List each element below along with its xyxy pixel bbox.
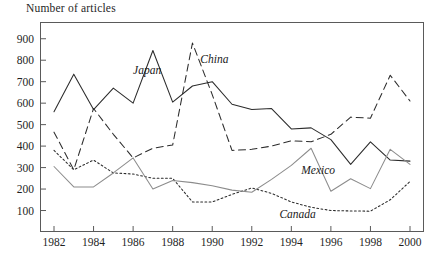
y-tick-label: 600 <box>17 97 34 109</box>
x-tick-label: 1984 <box>82 236 105 248</box>
series-label-japan: Japan <box>133 64 161 76</box>
y-tick-label: 300 <box>17 162 34 174</box>
y-axis-title: Number of articles <box>26 2 116 14</box>
y-tick-label: 800 <box>17 54 34 66</box>
y-tick-label: 700 <box>17 76 34 88</box>
y-tick-label: 900 <box>17 33 34 45</box>
plot-lines <box>40 22 424 232</box>
series-line-japan <box>54 51 410 165</box>
x-tick-label: 1986 <box>122 236 145 248</box>
y-axis-tick-labels: 100200300400500600700800900 <box>0 22 34 232</box>
x-tick-label: 1994 <box>280 236 303 248</box>
series-line-mexico <box>54 148 410 192</box>
x-tick-label: 1982 <box>43 236 66 248</box>
plot-area: JapanChinaCanadaMexico <box>40 22 424 232</box>
x-tick-label: 2000 <box>399 236 422 248</box>
x-tick-label: 1992 <box>240 236 263 248</box>
series-line-china <box>54 43 410 170</box>
y-tick-label: 200 <box>17 183 34 195</box>
series-label-china: China <box>200 53 228 65</box>
x-tick-label: 1988 <box>161 236 184 248</box>
x-tick-label: 1998 <box>359 236 382 248</box>
y-tick-label: 500 <box>17 119 34 131</box>
y-tick-label: 100 <box>17 205 34 217</box>
x-tick-label: 1996 <box>319 236 342 248</box>
chart-figure: Number of articles 100200300400500600700… <box>0 0 438 267</box>
x-tick-label: 1990 <box>201 236 224 248</box>
series-label-canada: Canada <box>279 208 315 220</box>
y-tick-label: 400 <box>17 140 34 152</box>
series-line-canada <box>54 150 410 211</box>
x-axis-tick-labels: 1982198419861988199019921994199619982000 <box>40 236 424 254</box>
series-label-mexico: Mexico <box>301 164 335 176</box>
